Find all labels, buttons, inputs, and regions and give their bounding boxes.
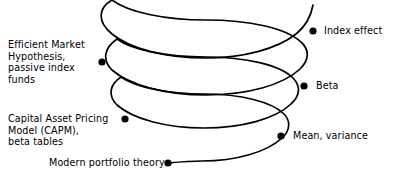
node-dot-modern-portfolio-theory (164, 159, 171, 166)
node-dot-beta (300, 82, 307, 89)
spiral-path-turn2 (111, 39, 298, 128)
spiral-path (101, 0, 313, 58)
node-label-index-effect: Index effect (324, 25, 382, 37)
spiral-diagram: Index effect Efficient Market Hypothesis… (0, 0, 408, 185)
node-dot-index-effect (309, 27, 316, 34)
node-label-efficient-market-hypothesis: Efficient Market Hypothesis, passive ind… (8, 39, 85, 85)
node-dot-efficient-market-hypothesis (98, 58, 105, 65)
node-label-mean-variance: Mean, variance (293, 130, 368, 142)
node-dot-capital-asset-pricing-model (121, 115, 128, 122)
node-label-beta: Beta (316, 80, 339, 92)
node-label-modern-portfolio-theory: Modern portfolio theory (49, 157, 165, 169)
node-dot-mean-variance (277, 132, 284, 139)
node-label-capital-asset-pricing-model: Capital Asset Pricing Model (CAPM), beta… (8, 113, 108, 148)
